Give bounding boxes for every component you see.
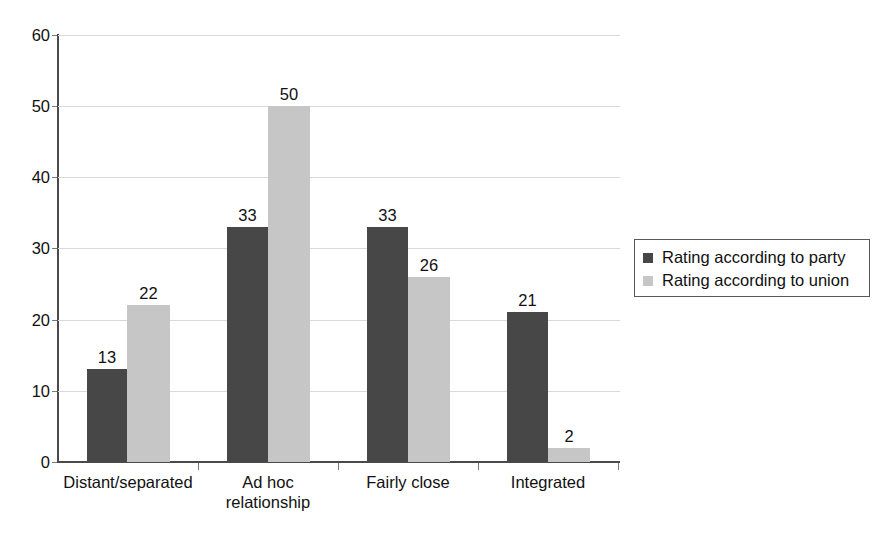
x-axis-tick [618, 463, 619, 470]
legend-label: Rating according to party [662, 249, 845, 266]
bar-value-label: 2 [548, 428, 590, 445]
y-tick-label: 50 [10, 98, 50, 114]
x-axis-tick [198, 463, 199, 470]
bar-party-fairly-close [367, 227, 408, 462]
legend-label: Rating according to union [662, 272, 849, 289]
bar-union-ad-hoc-relationship [268, 106, 310, 462]
legend: Rating according to party Rating accordi… [634, 239, 870, 297]
gridline [58, 106, 620, 107]
bar-party-distant-separated [87, 369, 127, 462]
bar-value-label: 33 [367, 207, 408, 224]
bar-value-label: 21 [507, 292, 548, 309]
bar-value-label: 26 [408, 257, 450, 274]
gridline [58, 248, 620, 249]
bar-chart: 60 50 40 30 20 10 0 13 22 33 50 [0, 0, 889, 535]
x-axis-category-label: Ad hoc relationship [198, 472, 338, 512]
legend-swatch-icon [643, 253, 653, 263]
y-tick-label: 60 [10, 27, 50, 43]
bar-union-distant-separated [127, 305, 170, 462]
y-tick-label: 30 [10, 240, 50, 256]
x-axis-category-label: Fairly close [338, 472, 478, 492]
bar-party-ad-hoc-relationship [227, 227, 268, 462]
y-tick-label: 0 [10, 454, 50, 470]
bar-value-label: 50 [268, 86, 310, 103]
bar-value-label: 13 [87, 349, 127, 366]
x-axis-tick [478, 463, 479, 470]
bar-value-label: 33 [227, 207, 268, 224]
plot-area: 13 22 33 50 33 26 21 2 [58, 35, 620, 462]
legend-item-party: Rating according to party [643, 246, 861, 269]
bar-value-label: 22 [127, 285, 170, 302]
legend-swatch-icon [643, 276, 653, 286]
legend-item-union: Rating according to union [643, 269, 861, 292]
bar-union-fairly-close [408, 277, 450, 462]
x-axis-category-label: Integrated [478, 472, 618, 492]
y-tick-label: 20 [10, 312, 50, 328]
bar-union-integrated [548, 448, 590, 462]
y-tick-label: 40 [10, 169, 50, 185]
gridline [58, 177, 620, 178]
x-axis-tick [338, 463, 339, 470]
gridline [58, 35, 620, 36]
y-axis-labels: 60 50 40 30 20 10 0 [0, 0, 50, 535]
x-axis-category-label: Distant/separated [48, 472, 208, 492]
bar-party-integrated [507, 312, 548, 462]
y-tick-label: 10 [10, 383, 50, 399]
